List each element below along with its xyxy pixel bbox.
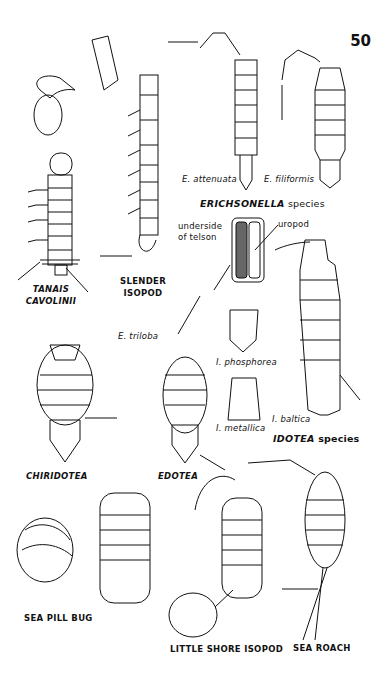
label-i-baltica: I. baltica [272, 415, 310, 424]
label-uropod: uropod [278, 220, 309, 229]
tanais-claw-drawing [34, 76, 75, 135]
i-baltica-drawing [275, 240, 360, 415]
sea-pill-bug-drawing [17, 493, 150, 603]
i-phosphorea-telson [230, 310, 258, 352]
label-underside-1: underside [178, 222, 222, 231]
label-i-phosphorea: I. phosphorea [216, 358, 277, 367]
erichsonella-suffix: species [285, 198, 325, 209]
i-metallica-telson [228, 378, 260, 420]
label-sea-pill-bug: SEA PILL BUG [24, 614, 93, 623]
erichsonella-title: ERICHSONELLA species [200, 199, 325, 209]
label-edotea: EDOTEA [158, 472, 198, 481]
little-shore-isopod-drawing [169, 476, 262, 637]
label-e-filiformis: E. filiformis [264, 175, 314, 184]
e-attenuata-drawing [168, 33, 257, 190]
tanais-body-drawing [18, 153, 88, 292]
label-i-metallica: I. metallica [216, 424, 265, 433]
label-e-attenuata: E. attenuata [182, 175, 237, 184]
isopod-illustrations [0, 0, 385, 686]
label-e-triloba: E. triloba [118, 332, 158, 341]
label-underside-2: of telson [178, 233, 217, 242]
label-slender-2: ISOPOD [118, 289, 168, 298]
idotea-suffix: species [315, 433, 360, 444]
chiridotea-drawing [37, 345, 117, 462]
label-tanais-2: CAVOLINII [22, 297, 80, 306]
idotea-genus: IDOTEA [273, 433, 315, 444]
label-slender-1: SLENDER [118, 277, 168, 286]
telson-detail-drawing [214, 218, 278, 290]
edotea-drawing [163, 296, 225, 470]
label-chiridotea: CHIRIDOTEA [26, 472, 88, 481]
idotea-title: IDOTEA species [273, 434, 359, 444]
sea-roach-drawing [248, 460, 345, 640]
e-filiformis-drawing [282, 50, 345, 188]
label-tanais-1: TANAIS [26, 285, 76, 294]
erichsonella-genus: ERICHSONELLA [200, 198, 285, 209]
label-little-shore-isopod: LITTLE SHORE ISOPOD [170, 645, 283, 654]
label-sea-roach: SEA ROACH [293, 644, 351, 653]
page-number: 50 [350, 32, 371, 50]
slender-isopod-drawing [92, 36, 158, 256]
